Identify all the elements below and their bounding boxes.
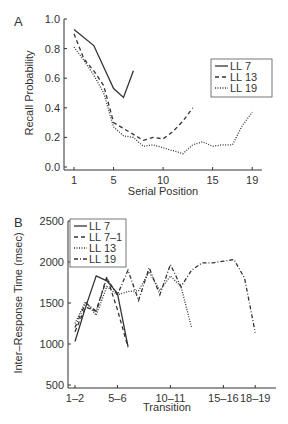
panel-b: B Inter–Response Time (msec) Transition … <box>12 215 276 413</box>
y-tick-label: 2500 <box>40 215 64 227</box>
panel-b-y-axis-label: Inter–Response Time (msec) <box>12 232 24 373</box>
x-tick-label: 5–6 <box>108 392 126 404</box>
panel-a-label: A <box>14 14 23 29</box>
y-tick-label: 0.8 <box>45 43 60 55</box>
y-tick-label: 1000 <box>40 338 64 350</box>
x-tick-label: 18–19 <box>240 392 271 404</box>
y-tick-label: 0.4 <box>45 102 60 114</box>
x-tick-label: 1–2 <box>66 392 84 404</box>
y-tick-label: 0.6 <box>45 72 60 84</box>
legend-label: LL 19 <box>230 82 257 94</box>
y-tick-label: 0.2 <box>45 131 60 143</box>
panel-a-y-axis-label: Recall Probability <box>23 50 35 135</box>
series-line-dashdot <box>75 260 255 333</box>
x-tick-label: 15 <box>206 174 218 186</box>
y-tick-label: 1.0 <box>45 13 60 25</box>
x-tick-label: 19 <box>246 174 258 186</box>
y-tick-label: 0.0 <box>45 161 60 173</box>
y-tick-label: 500 <box>46 379 64 391</box>
panel-a-legend: LL 7 LL 13 LL 19 <box>211 59 272 97</box>
series-line-dotted <box>75 272 192 328</box>
panel-a-axes: 0.00.20.40.60.81.015101519 <box>45 13 262 186</box>
series-line-solid <box>75 276 128 347</box>
panel-b-label: B <box>14 215 23 230</box>
legend-label: LL 19 <box>89 253 116 265</box>
x-tick-label: 15–16 <box>208 392 239 404</box>
panel-a-x-axis-label: Serial Position <box>128 185 198 197</box>
x-tick-label: 10 <box>157 174 169 186</box>
panel-b-legend: LL 7 LL 7–1 LL 13 LL 19 <box>70 219 126 267</box>
figure: A Recall Probability Serial Position 0.0… <box>0 0 288 424</box>
y-tick-label: 1500 <box>40 297 64 309</box>
y-tick-label: 2000 <box>40 256 64 268</box>
series-line-dashed <box>74 34 193 141</box>
panel-a: A Recall Probability Serial Position 0.0… <box>14 13 272 197</box>
x-tick-label: 10–11 <box>156 392 186 404</box>
panel-b-series <box>75 260 255 348</box>
x-tick-label: 5 <box>111 174 117 186</box>
x-tick-label: 1 <box>71 174 77 186</box>
series-line-solid <box>74 29 133 97</box>
